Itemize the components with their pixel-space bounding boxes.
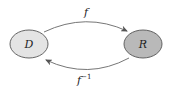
- forward-arrow: [44, 22, 127, 32]
- edge-label-f-inverse: f−1: [76, 73, 91, 87]
- range-label: R: [138, 38, 147, 51]
- function-mapping-diagram: f f−1 D R: [0, 0, 173, 90]
- edge-r-to-d: f−1: [46, 58, 129, 87]
- edge-label-f: f: [83, 6, 90, 19]
- node-range: R: [124, 30, 162, 58]
- domain-label: D: [24, 38, 34, 51]
- node-domain: D: [10, 30, 48, 58]
- inverse-arrow: [46, 58, 129, 70]
- edge-d-to-r: f: [44, 6, 127, 32]
